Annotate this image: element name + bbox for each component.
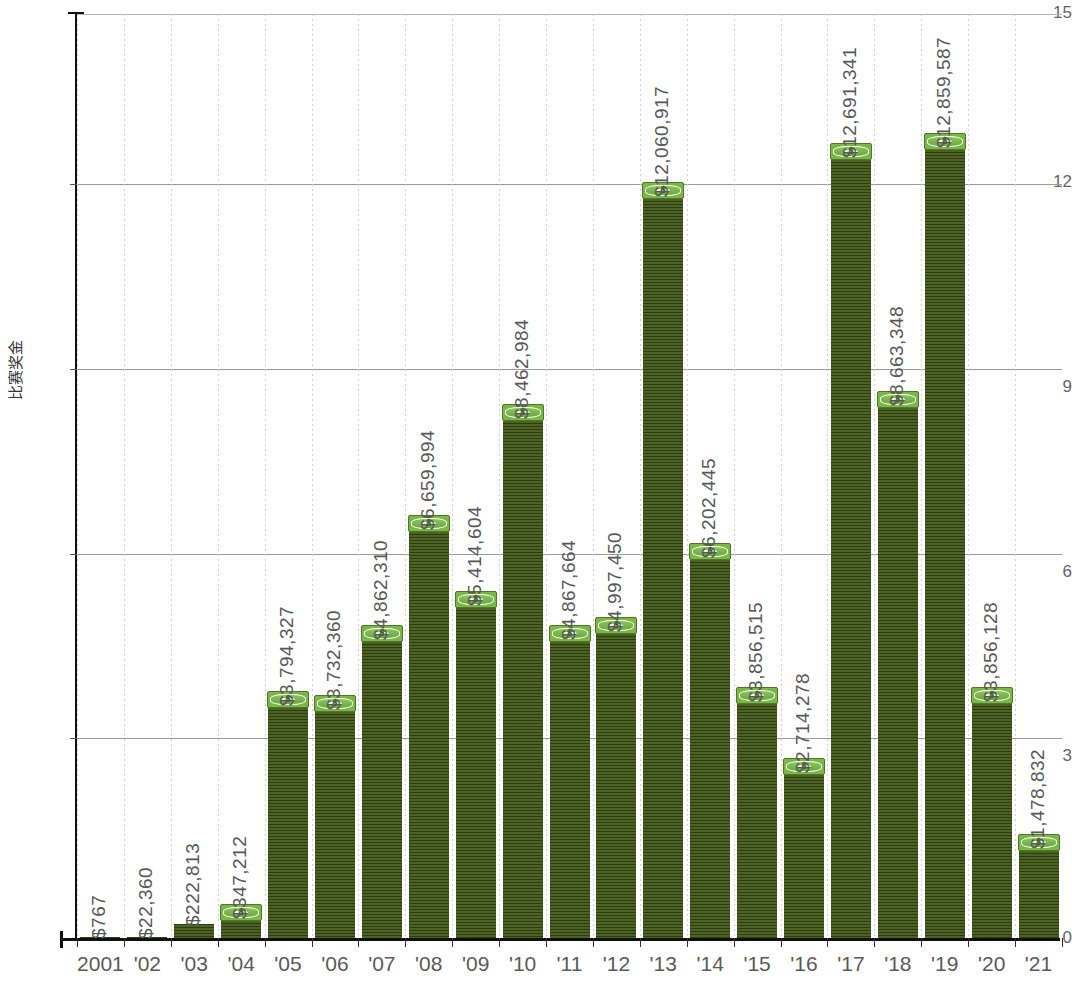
vertical-gridline [312,14,313,938]
x-axis-tick [77,938,78,947]
vertical-gridline [124,14,125,938]
bar-value-label: $3,856,128 [980,602,1002,702]
bar-value-label: $3,794,327 [276,606,298,706]
x-axis-tick [171,938,172,947]
x-axis-label: '10 [499,952,546,976]
bar[interactable] [690,556,730,938]
x-axis-tick [640,938,641,947]
bar[interactable] [925,146,965,938]
bar[interactable] [503,417,543,938]
bar[interactable] [784,771,824,938]
bar-value-label: $347,212 [229,835,251,918]
bar-value-label: $4,862,310 [370,540,392,640]
bar[interactable] [456,604,496,938]
x-axis-line [60,938,1060,941]
prize-money-bar-chart: 比赛奖金 15 12 9 6 3 0 $7672001$22,360'02$22… [0,0,1072,983]
x-axis-tick [358,938,359,947]
x-axis-tick [827,938,828,947]
vertical-gridline [77,14,78,938]
bar-value-label: $12,691,341 [839,47,861,158]
gridline-9 [77,369,1062,370]
bar[interactable] [972,700,1012,938]
x-axis-label: '18 [874,952,921,976]
x-axis-tick [1015,938,1016,947]
vertical-gridline [968,14,969,938]
x-axis-tick [921,938,922,947]
bar-value-label: $3,856,515 [745,602,767,702]
x-axis-tick [405,938,406,947]
bar[interactable] [643,195,683,938]
bar[interactable] [596,630,636,938]
x-axis-tick [781,938,782,947]
x-axis-label: '03 [171,952,218,976]
vertical-gridline [218,14,219,938]
bar-value-label: $1,478,832 [1027,749,1049,849]
vertical-gridline [358,14,359,938]
vertical-gridline [171,14,172,938]
bar-value-label: $222,813 [182,843,204,926]
bar-value-label: $6,202,445 [698,458,720,558]
vertical-gridline [827,14,828,938]
bar[interactable] [409,528,449,938]
bar[interactable] [174,924,214,938]
plot-area [77,14,1062,938]
vertical-gridline [593,14,594,938]
vertical-gridline [452,14,453,938]
vertical-gridline [405,14,406,938]
x-axis-tick [734,938,735,947]
vertical-gridline [640,14,641,938]
x-axis-label: '08 [405,952,452,976]
bar-value-label: $12,859,587 [933,37,955,148]
vertical-gridline [921,14,922,938]
bar[interactable] [362,638,402,938]
x-axis-label: '15 [734,952,781,976]
vertical-gridline [781,14,782,938]
x-axis-tick [218,938,219,947]
bar-value-label: $767 [88,894,110,938]
x-axis-label: '06 [312,952,359,976]
x-axis-label: '21 [1015,952,1062,976]
gridline-15 [77,14,1062,15]
x-axis-origin-foot [60,931,63,948]
x-axis-tick [124,938,125,947]
x-axis-label: 2001 [77,952,124,976]
bar[interactable] [737,700,777,938]
x-axis-tick [968,938,969,947]
x-axis-tick [452,938,453,947]
bar-value-label: $8,462,984 [511,319,533,419]
vertical-gridline [265,14,266,938]
bar-value-label: $8,663,348 [886,306,908,406]
bar-value-label: $5,414,604 [464,506,486,606]
bar[interactable] [221,917,261,938]
x-axis-tick [546,938,547,947]
x-axis-label: '02 [124,952,171,976]
vertical-gridline [874,14,875,938]
x-axis-label: '13 [640,952,687,976]
bar[interactable] [268,704,308,938]
bar-value-label: $12,060,917 [651,86,673,197]
bar-value-label: $4,867,664 [558,540,580,640]
x-axis-tick [265,938,266,947]
bar-value-label: $6,659,994 [417,430,439,530]
x-axis-tick [1062,938,1063,947]
x-axis-tick [499,938,500,947]
bar[interactable] [550,638,590,938]
bar[interactable] [878,404,918,938]
x-axis-label: '16 [781,952,828,976]
bar-value-label: $22,360 [135,866,157,938]
x-axis-label: '19 [921,952,968,976]
bar[interactable] [831,156,871,938]
bar-value-label: $2,714,278 [792,673,814,773]
x-axis-label: '04 [218,952,265,976]
x-axis-label: '12 [593,952,640,976]
bar-value-label: $3,732,360 [323,610,345,710]
bar[interactable] [1019,847,1059,938]
bar[interactable] [315,708,355,938]
vertical-gridline [546,14,547,938]
x-axis-label: '07 [358,952,405,976]
x-axis-tick [312,938,313,947]
gridline-12 [77,184,1062,185]
x-axis-label: '14 [687,952,734,976]
x-axis-label: '17 [827,952,874,976]
bar-value-label: $4,997,450 [604,532,626,632]
